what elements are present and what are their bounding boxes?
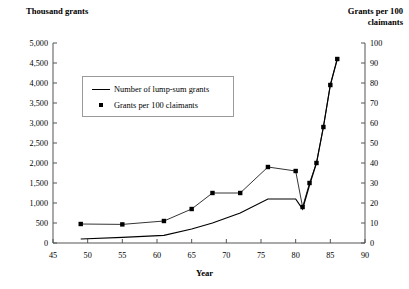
data-point-marker (328, 83, 332, 87)
data-point-marker (210, 191, 214, 195)
legend-item-grants-per-100: Grants per 100 claimants (91, 98, 198, 112)
left-tick-label: 2,500 (8, 139, 48, 148)
left-tick-label: 0 (8, 239, 48, 248)
right-tick-label: 30 (370, 179, 404, 188)
legend-line-icon (91, 89, 111, 90)
data-point-marker (300, 205, 304, 209)
right-tick-label: 90 (370, 59, 404, 68)
legend-label: Number of lump-sum grants (114, 85, 209, 94)
right-tick-label: 0 (370, 239, 404, 248)
left-tick-label: 5,000 (8, 39, 48, 48)
x-tick-label: 90 (350, 251, 380, 260)
chart-figure: Thousand grants Grants per 100 claimants… (0, 0, 409, 289)
data-point-marker (189, 207, 193, 211)
right-tick-label: 40 (370, 159, 404, 168)
data-point-marker (307, 181, 311, 185)
left-tick-label: 1,000 (8, 199, 48, 208)
plot-area (0, 0, 409, 289)
chart-legend: Number of lump-sum grants Grants per 100… (82, 76, 234, 117)
legend-marker-icon (91, 103, 111, 107)
right-tick-label: 70 (370, 99, 404, 108)
left-tick-label: 1,500 (8, 179, 48, 188)
left-tick-label: 2,000 (8, 159, 48, 168)
right-tick-label: 50 (370, 139, 404, 148)
x-tick-label: 60 (142, 251, 172, 260)
x-tick-label: 80 (281, 251, 311, 260)
data-point-marker (266, 165, 270, 169)
right-tick-label: 100 (370, 39, 404, 48)
left-tick-label: 3,000 (8, 119, 48, 128)
right-tick-label: 20 (370, 199, 404, 208)
x-tick-label: 55 (107, 251, 137, 260)
left-tick-label: 500 (8, 219, 48, 228)
x-tick-label: 50 (73, 251, 103, 260)
x-tick-label: 75 (246, 251, 276, 260)
data-point-marker (321, 125, 325, 129)
left-tick-label: 4,500 (8, 59, 48, 68)
left-tick-label: 4,000 (8, 79, 48, 88)
left-tick-label: 3,500 (8, 99, 48, 108)
right-tick-label: 10 (370, 219, 404, 228)
axis-lines (53, 43, 365, 243)
legend-item-lump-sum-grants: Number of lump-sum grants (91, 82, 209, 96)
legend-label: Grants per 100 claimants (114, 101, 198, 110)
x-tick-label: 70 (211, 251, 241, 260)
x-tick-label: 65 (177, 251, 207, 260)
right-tick-label: 80 (370, 79, 404, 88)
right-tick-label: 60 (370, 119, 404, 128)
data-point-marker (162, 219, 166, 223)
data-point-marker (293, 169, 297, 173)
x-tick-label: 45 (38, 251, 68, 260)
data-point-marker (79, 222, 83, 226)
data-point-marker (120, 222, 124, 226)
tick-marks (53, 43, 365, 243)
data-point-marker (335, 57, 339, 61)
data-point-marker (314, 161, 318, 165)
x-tick-label: 85 (315, 251, 345, 260)
data-point-marker (238, 191, 242, 195)
